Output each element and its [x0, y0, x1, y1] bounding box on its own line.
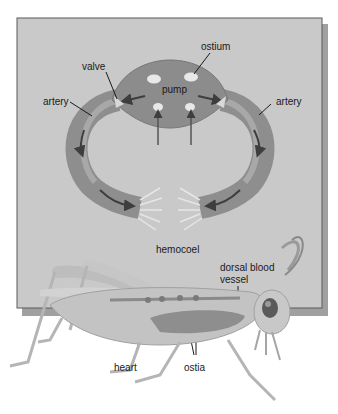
label-hemocoel: hemocoel — [156, 244, 199, 255]
label-dorsal-blood-vessel-line1: dorsal blood — [220, 262, 274, 273]
label-artery-left: artery — [43, 96, 69, 107]
label-ostia: ostia — [184, 362, 205, 373]
label-pump: pump — [162, 84, 187, 95]
diagram-stage: ostium valve pump artery artery hemocoel… — [0, 0, 338, 414]
label-dorsal-blood-vessel-line2: vessel — [220, 274, 248, 285]
label-heart: heart — [114, 362, 137, 373]
ostium-opening — [185, 103, 195, 111]
circulation-illustration — [0, 0, 338, 414]
ostium-opening — [153, 103, 163, 111]
label-artery-right: artery — [276, 96, 302, 107]
ostium-opening — [147, 75, 161, 84]
label-ostium: ostium — [201, 41, 230, 52]
ostium-opening — [184, 73, 198, 82]
label-valve: valve — [82, 61, 105, 72]
